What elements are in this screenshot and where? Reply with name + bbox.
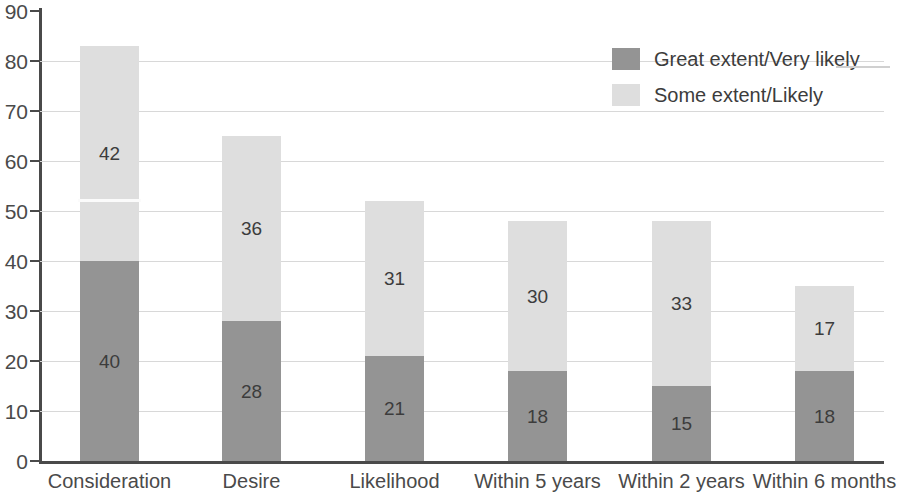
bar-value-label: 28 [241, 382, 262, 401]
bar-group: 3018 [508, 221, 567, 461]
bar-value-label: 21 [384, 399, 405, 418]
x-axis-label-within-5-years: Within 5 years [458, 470, 618, 492]
gridline [40, 161, 884, 162]
bar-group: 3121 [365, 201, 424, 461]
x-axis-label-desire: Desire [172, 470, 332, 492]
x-axis-label-consideration: Consideration [30, 470, 190, 492]
legend-rule-artifact [836, 66, 890, 68]
axis-baseline [39, 461, 884, 464]
y-tick-mark [30, 460, 39, 462]
legend-item[interactable]: Some extent/Likely [612, 80, 860, 110]
y-tick-mark [30, 360, 39, 362]
bar-value-label: 31 [384, 269, 405, 288]
bar-segment-great-extent: 21 [365, 356, 424, 461]
y-tick-mark [30, 110, 39, 112]
y-tick-mark [30, 410, 39, 412]
y-tick-mark [30, 310, 39, 312]
bar-segment-some-extent: 36 [222, 136, 281, 321]
y-tick-label: 80 [0, 51, 28, 72]
y-tick-mark [30, 160, 39, 162]
y-tick-label: 40 [0, 251, 28, 272]
y-tick-label: 0 [0, 451, 28, 472]
bar-segment-some-extent: 30 [508, 221, 567, 371]
legend-item-label: Some extent/Likely [654, 84, 823, 106]
legend-item-label: Great extent/Very likely [654, 48, 860, 70]
x-axis-label-within-2-years: Within 2 years [602, 470, 762, 492]
scan-artifact-rule [78, 199, 141, 202]
bar-group: 3315 [652, 221, 711, 461]
y-tick-label: 50 [0, 201, 28, 222]
x-axis-label-within-6-months: Within 6 months [745, 470, 901, 492]
bar-group: 3628 [222, 136, 281, 461]
y-tick-label: 10 [0, 401, 28, 422]
bar-value-label: 15 [671, 414, 692, 433]
legend-swatch-icon [612, 48, 640, 70]
bar-segment-great-extent: 18 [795, 371, 854, 461]
bar-value-label: 18 [814, 407, 835, 426]
bar-segment-some-extent: 31 [365, 201, 424, 356]
y-tick-mark [30, 260, 39, 262]
bar-value-label: 33 [671, 294, 692, 313]
gridline [40, 211, 884, 212]
bar-segment-some-extent: 17 [795, 286, 854, 371]
y-tick-label: 90 [0, 1, 28, 22]
gridline [40, 411, 884, 412]
legend-swatch-icon [612, 84, 640, 106]
bar-segment-some-extent: 33 [652, 221, 711, 386]
y-tick-label: 60 [0, 151, 28, 172]
y-tick-label: 30 [0, 301, 28, 322]
bar-group: 4240 [80, 46, 139, 461]
y-tick-mark [30, 210, 39, 212]
bar-value-label: 18 [527, 407, 548, 426]
bar-value-label: 36 [241, 219, 262, 238]
y-tick-label: 70 [0, 101, 28, 122]
bar-segment-great-extent: 28 [222, 321, 281, 461]
chart-legend: Great extent/Very likelySome extent/Like… [612, 44, 860, 116]
gridline [40, 311, 884, 312]
gridline [40, 261, 884, 262]
bar-value-label: 30 [527, 287, 548, 306]
bar-value-label: 40 [99, 352, 120, 371]
gridline [40, 361, 884, 362]
y-tick-mark [30, 10, 39, 12]
y-tick-mark [30, 60, 39, 62]
x-axis-label-likelihood: Likelihood [315, 470, 475, 492]
bar-segment-great-extent: 18 [508, 371, 567, 461]
bar-segment-great-extent: 40 [80, 261, 139, 461]
bar-group: 1718 [795, 286, 854, 461]
bar-segment-great-extent: 15 [652, 386, 711, 461]
legend-item[interactable]: Great extent/Very likely [612, 44, 860, 74]
y-tick-label: 20 [0, 351, 28, 372]
bar-value-label: 17 [814, 319, 835, 338]
bar-value-label: 42 [99, 144, 120, 163]
bar-segment-some-extent: 42 [80, 46, 139, 261]
